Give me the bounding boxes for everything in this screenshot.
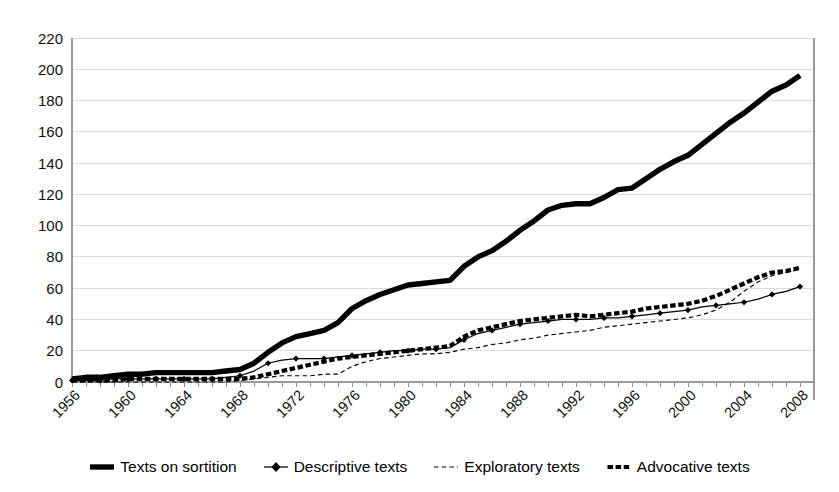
legend-item-exploratory-texts[interactable]: Exploratory texts xyxy=(433,459,579,475)
x-axis-labels-group: 1956196019641968197219761980198419881992… xyxy=(49,387,811,421)
legend-item-texts-on-sortition[interactable]: Texts on sortition xyxy=(89,459,236,475)
legend-item-advocative-texts[interactable]: Advocative texts xyxy=(606,459,750,475)
y-axis-tick-label: 0 xyxy=(55,374,63,391)
data-point-marker xyxy=(741,299,747,305)
legend-label: Exploratory texts xyxy=(464,459,579,475)
data-point-marker xyxy=(657,310,663,316)
y-axis-tick-label: 20 xyxy=(46,342,63,359)
chart-legend: Texts on sortition Descriptive texts Exp… xyxy=(0,452,839,482)
x-axis-tick-label: 1992 xyxy=(553,387,587,421)
legend-item-descriptive-texts[interactable]: Descriptive texts xyxy=(263,459,408,475)
series-line-2 xyxy=(72,269,800,382)
y-axis-tick-label: 220 xyxy=(38,30,63,47)
data-point-marker xyxy=(713,302,719,308)
legend-label: Texts on sortition xyxy=(120,459,236,475)
x-tickmarks-group xyxy=(72,382,800,387)
x-axis-tick-label: 1968 xyxy=(217,387,251,421)
thin-dashed-line-icon xyxy=(433,460,459,474)
data-point-marker xyxy=(265,360,271,366)
series-line-0 xyxy=(72,76,800,379)
chart-plot-area: 020406080100120140160180200220 195619601… xyxy=(0,0,839,492)
x-axis-tick-label: 2000 xyxy=(665,387,699,421)
y-axis-tick-label: 160 xyxy=(38,123,63,140)
data-point-marker xyxy=(797,284,803,290)
data-point-marker xyxy=(293,355,299,361)
x-axis-tick-label: 1972 xyxy=(273,387,307,421)
legend-label: Descriptive texts xyxy=(294,459,408,475)
y-axis-tick-label: 200 xyxy=(38,61,63,78)
x-axis-tick-label: 1984 xyxy=(441,387,475,421)
y-axis-tick-label: 120 xyxy=(38,186,63,203)
series-line-3 xyxy=(72,268,800,381)
x-axis-tick-label: 1988 xyxy=(497,387,531,421)
sortition-texts-line-chart: 020406080100120140160180200220 195619601… xyxy=(0,0,839,492)
data-point-marker xyxy=(769,291,775,297)
x-axis-tick-label: 1960 xyxy=(105,387,139,421)
thick-solid-line-icon xyxy=(89,460,115,474)
x-axis-tick-label: 2008 xyxy=(777,387,811,421)
y-axis-tick-label: 80 xyxy=(46,248,63,265)
y-axis-tick-label: 140 xyxy=(38,155,63,172)
y-axis-tick-label: 100 xyxy=(38,217,63,234)
data-point-marker xyxy=(685,307,691,313)
data-point-marker xyxy=(573,316,579,322)
thick-dotted-line-icon xyxy=(606,460,632,474)
x-axis-tick-label: 1980 xyxy=(385,387,419,421)
x-axis-tick-label: 1996 xyxy=(609,387,643,421)
series-line-1 xyxy=(72,287,800,381)
x-axis-tick-label: 2004 xyxy=(721,387,755,421)
diamond-marker-icon xyxy=(263,460,289,474)
x-axis-tick-label: 1976 xyxy=(329,387,363,421)
data-point-marker xyxy=(629,313,635,319)
gridlines-group xyxy=(72,38,814,351)
y-axis-labels-group: 020406080100120140160180200220 xyxy=(38,30,63,391)
y-axis-tick-label: 180 xyxy=(38,92,63,109)
y-axis-tick-label: 60 xyxy=(46,280,63,297)
legend-label: Advocative texts xyxy=(637,459,750,475)
data-series-group xyxy=(69,76,803,384)
x-axis-tick-label: 1964 xyxy=(161,387,195,421)
x-axis-tick-label: 1956 xyxy=(49,387,83,421)
y-axis-tick-label: 40 xyxy=(46,311,63,328)
